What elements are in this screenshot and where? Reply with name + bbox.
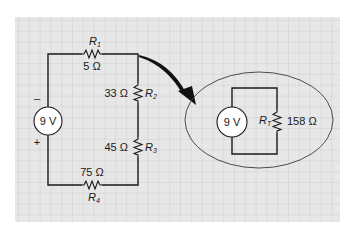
r3-value-label: 45 Ω — [104, 141, 128, 153]
source-minus-sign: – — [34, 92, 41, 104]
source-plus-sign: + — [34, 136, 40, 148]
equiv-source-voltage-label: 9 V — [224, 116, 241, 128]
source-voltage-label: 9 V — [40, 115, 57, 127]
r2-value-label: 33 Ω — [104, 87, 128, 99]
r1-value-label: 5 Ω — [83, 60, 100, 72]
series-circuit-diagram: 9 V – + R1 5 Ω 33 Ω R2 45 Ω R3 75 Ω R4 — [0, 0, 354, 232]
r4-value-label: 75 Ω — [80, 166, 104, 178]
rt-value-label: 158 Ω — [287, 115, 317, 127]
